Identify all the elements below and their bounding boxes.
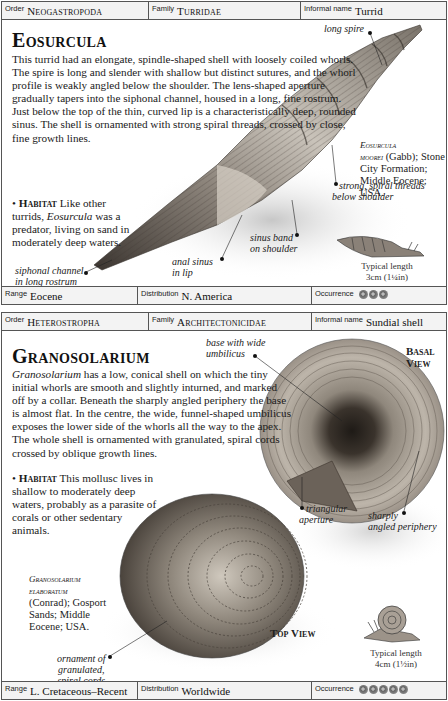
callout-dot: [402, 511, 406, 515]
family-label: Family: [152, 315, 174, 324]
informal-name-cell: Informal name Sundial shell: [312, 313, 446, 330]
habitat-paragraph: • Habitat This mollusc lives in shallow …: [12, 472, 162, 537]
order-value: Heterostropha: [27, 316, 100, 328]
distribution-cell: Distribution N. America: [138, 287, 312, 304]
order-cell: Order Heterostropha: [2, 313, 149, 330]
entry-panel: Eosurcula This turrid had an elongate, s…: [1, 20, 447, 286]
specimen-species: elaboratum: [29, 585, 129, 597]
distribution-cell: Distribution Worldwide: [138, 682, 312, 699]
typical-length: Typical length 4cm (1½in): [361, 648, 431, 670]
range-value: Eocene: [30, 290, 62, 302]
callout-dot: [220, 257, 224, 261]
informal-name-label: Informal name: [315, 315, 363, 324]
callout-anal-sinus: anal sinus in lip: [172, 256, 213, 278]
callout-triangular-aperture: triangular aperture: [299, 503, 347, 525]
entry-granosolarium: Order Heterostropha Family Architectonic…: [1, 312, 447, 700]
order-label: Order: [5, 4, 24, 13]
occurrence-shell-icon: [369, 290, 378, 299]
informal-name-value: Turrid: [355, 5, 383, 17]
callout-dot: [84, 271, 88, 275]
occurrence-shell-icon: [379, 685, 388, 694]
specimen-caption: Granosolarium elaboratum (Conrad); Gospo…: [29, 573, 129, 633]
informal-name-cell: Informal name Turrid: [301, 2, 446, 19]
occurrence-shell-icon: [359, 290, 368, 299]
range-label: Range: [5, 684, 27, 693]
informal-name-label: Informal name: [304, 4, 352, 13]
genus-title: Granosolarium: [12, 345, 150, 368]
range-value: L. Cretaceous–Recent: [30, 685, 127, 697]
informal-name-value: Sundial shell: [366, 316, 423, 328]
distribution-value: Worldwide: [182, 685, 231, 697]
occurrence-cell: Occurrence: [312, 287, 446, 304]
occurrence-shell-icon: [359, 685, 368, 694]
order-value: Neogastropoda: [27, 5, 102, 17]
callout-dot: [300, 506, 304, 510]
description-text: has a low, conical shell on which the ti…: [12, 368, 291, 459]
description: Granosolarium has a low, conical shell o…: [12, 368, 292, 460]
range-cell: Range Eocene: [2, 287, 138, 304]
occurrence-cell: Occurrence: [312, 682, 446, 699]
habitat-paragraph: • Habitat Like other turrids, Eosurcula …: [12, 197, 132, 249]
specimen-genus: Eosurcula: [360, 140, 396, 150]
entry-panel: Granosolarium Granosolarium has a low, c…: [1, 331, 447, 681]
classification-bar: Order Neogastropoda Family Turridae Info…: [1, 1, 447, 20]
typical-length-value: 4cm (1½in): [361, 659, 431, 670]
specimen-species: moorei: [360, 152, 383, 162]
family-cell: Family Architectonicidae: [149, 313, 312, 330]
habitat-genus: Eosurcula: [47, 210, 93, 222]
occurrence-shell-icon: [379, 290, 388, 299]
distribution-label: Distribution: [141, 289, 179, 298]
occurrence-shell-icon: [369, 685, 378, 694]
family-value: Turridae: [177, 5, 221, 17]
specimen-genus: Granosolarium: [29, 573, 129, 585]
top-view-label: Top View: [270, 627, 315, 639]
live-animal-illustration: [332, 230, 432, 260]
range-label: Range: [5, 289, 27, 298]
description: This turrid had an elongate, spindle-sha…: [12, 53, 357, 145]
callout-siphonal-channel: siphonal channel in long rostrum: [15, 265, 84, 286]
family-label: Family: [152, 4, 174, 13]
distribution-label: Distribution: [141, 684, 179, 693]
occurrence-label: Occurrence: [315, 684, 354, 693]
range-cell: Range L. Cretaceous–Recent: [2, 682, 138, 699]
entry-eosurcula: Order Neogastropoda Family Turridae Info…: [1, 1, 447, 305]
genus-title: Eosurcula: [12, 29, 107, 52]
description-genus: Granosolarium: [12, 368, 81, 380]
typical-length-label: Typical length: [361, 648, 431, 659]
habitat-label: Habitat: [19, 472, 57, 484]
order-cell: Order Neogastropoda: [2, 2, 149, 19]
specimen-caption: Eosurcula moorei (Gabb); Stone City Form…: [360, 139, 446, 199]
occurrence-shell-icon: [389, 685, 398, 694]
family-cell: Family Turridae: [149, 2, 301, 19]
typical-length: Typical length 3cm (1¼in): [347, 261, 427, 283]
callout-ornament: ornament of granulated, spiral cords: [57, 653, 106, 681]
occurrence-shell-icon: [399, 685, 408, 694]
live-animal-illustration: [362, 604, 422, 644]
occurrence-rating: [359, 290, 388, 299]
typical-length-value: 3cm (1¼in): [347, 272, 427, 283]
callout-dot: [368, 31, 372, 35]
family-value: Architectonicidae: [177, 316, 266, 328]
order-label: Order: [5, 315, 24, 324]
callout-sinus-band: sinus band on shoulder: [250, 232, 298, 254]
basal-view-label: Basal View: [406, 345, 435, 369]
range-bar: Range Eocene Distribution N. America Occ…: [1, 286, 447, 305]
description-text: This turrid had an elongate, spindle-sha…: [12, 53, 357, 145]
occurrence-label: Occurrence: [315, 289, 354, 298]
occurrence-rating: [359, 685, 408, 694]
classification-bar: Order Heterostropha Family Architectonic…: [1, 312, 447, 331]
typical-length-label: Typical length: [347, 261, 427, 272]
callout-dot: [108, 655, 112, 659]
callout-dot: [253, 354, 257, 358]
callout-dot: [295, 233, 299, 237]
range-bar: Range L. Cretaceous–Recent Distribution …: [1, 681, 447, 700]
callout-long-spire: long spire: [324, 23, 364, 34]
distribution-value: N. America: [182, 290, 233, 302]
habitat-label: Habitat: [19, 197, 57, 209]
callout-dot: [334, 182, 338, 186]
